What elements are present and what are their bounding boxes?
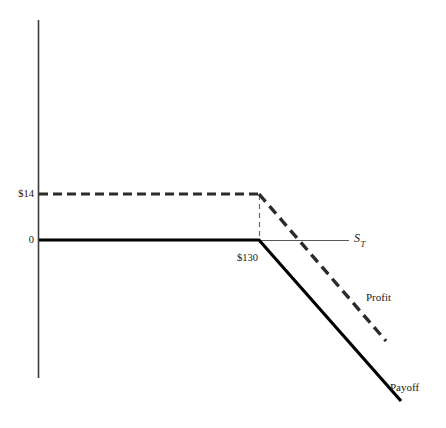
y-axis-tick-label-zero: 0 — [8, 235, 34, 246]
y-axis-tick-label-premium: $14 — [8, 189, 34, 200]
x-axis-tick-label-strike: $130 — [237, 253, 258, 264]
x-axis-title-subscript: T — [361, 239, 366, 249]
payoff-series-line — [39, 240, 401, 401]
series-label-payoff: Payoff — [390, 382, 419, 393]
x-axis-title-main: S — [354, 231, 360, 245]
option-payoff-chart: $14 0 $130 ST Profit Payoff — [0, 0, 446, 428]
profit-series-line — [259, 194, 386, 341]
x-axis-title: ST — [354, 232, 365, 247]
series-label-profit: Profit — [366, 292, 391, 303]
chart-canvas — [0, 0, 446, 428]
